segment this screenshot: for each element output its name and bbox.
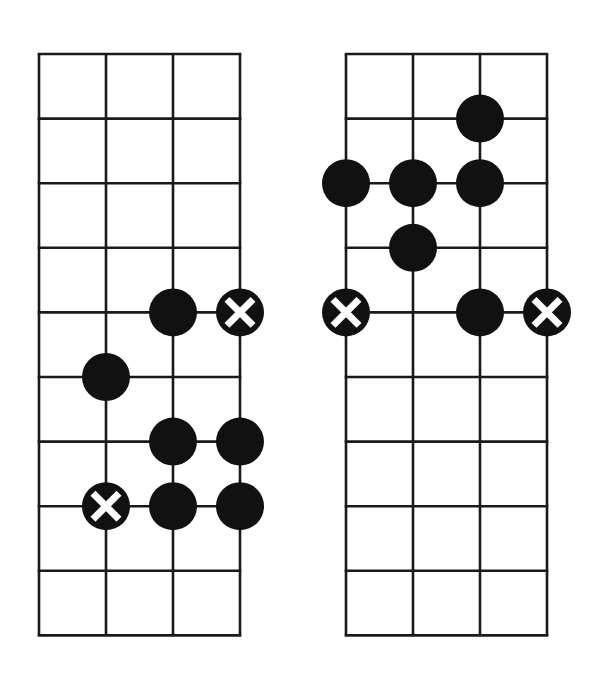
- note-dot: [322, 159, 370, 207]
- root-note-x-icon: [216, 288, 264, 336]
- note-dot: [149, 482, 197, 530]
- root-note-x-icon: [82, 482, 130, 530]
- note-dot: [456, 95, 504, 143]
- note-dot: [216, 482, 264, 530]
- note-dot: [456, 159, 504, 207]
- note-dot: [456, 288, 504, 336]
- note-dot: [82, 353, 130, 401]
- note-dot: [216, 418, 264, 466]
- note-dot: [389, 224, 437, 272]
- root-note-x-icon: [322, 288, 370, 336]
- note-dot: [149, 288, 197, 336]
- fretboard-diagrams: [0, 0, 603, 676]
- note-dot: [149, 418, 197, 466]
- note-dot: [389, 159, 437, 207]
- root-note-x-icon: [523, 288, 571, 336]
- background: [0, 0, 603, 676]
